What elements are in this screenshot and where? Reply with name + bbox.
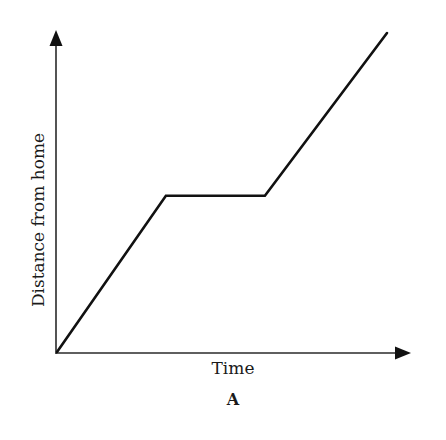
distance-line <box>57 33 387 352</box>
distance-time-graph: Time A Distance from home <box>0 0 446 440</box>
x-axis-label: Time <box>212 358 255 378</box>
figure-caption: A <box>226 390 240 409</box>
y-axis-arrow-icon <box>50 30 63 46</box>
y-axis-label: Distance from home <box>28 133 48 307</box>
x-axis-arrow-icon <box>395 347 411 360</box>
